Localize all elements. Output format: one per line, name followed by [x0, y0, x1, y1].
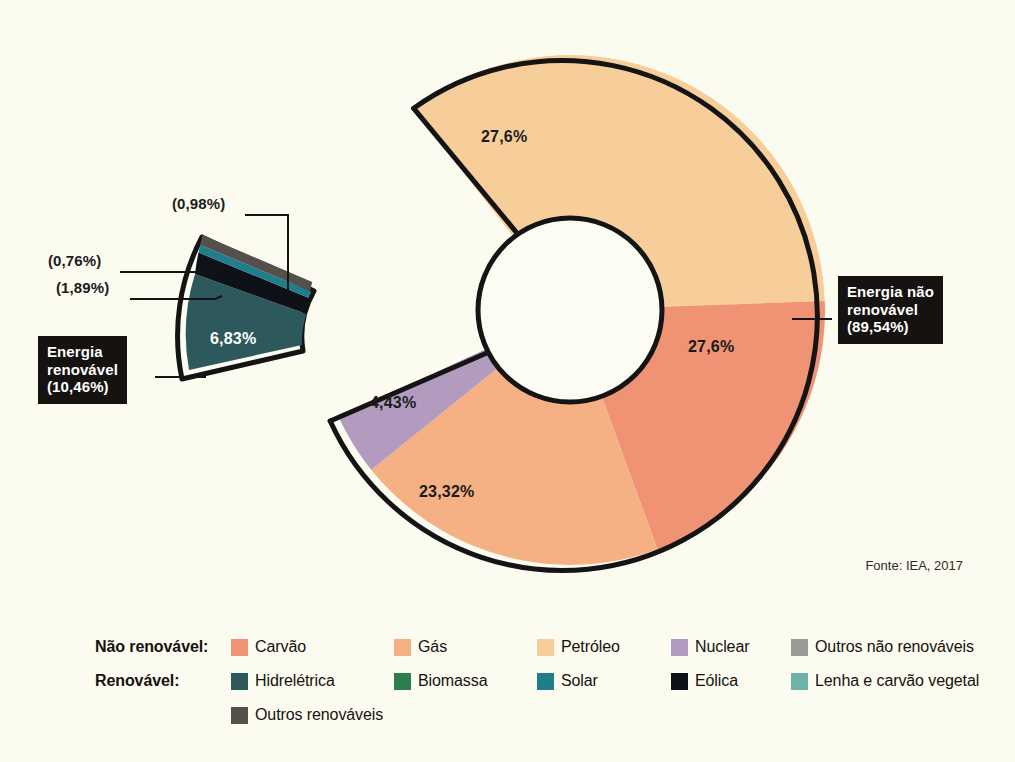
legend-label: Petróleo: [561, 638, 620, 656]
label-nuclear: 4,43%: [370, 394, 416, 412]
legend-item-solar[interactable]: Solar: [537, 672, 671, 690]
donut-hole: [478, 218, 662, 402]
color-swatch-icon: [537, 639, 554, 656]
legend-label: Carvão: [255, 638, 306, 656]
legend-label: Outros renováveis: [255, 706, 383, 724]
legend-item-outros-renovaveis[interactable]: Outros renováveis: [231, 706, 383, 724]
legend-item-eolica[interactable]: Eólica: [671, 672, 791, 690]
legend-label: Outros não renováveis: [815, 638, 974, 656]
legend-item-petroleo[interactable]: Petróleo: [537, 638, 671, 656]
label-carvao: 27,6%: [688, 338, 734, 356]
legend-label: Nuclear: [695, 638, 749, 656]
legend-item-outros-nao-renovaveis[interactable]: Outros não renováveis: [791, 638, 974, 656]
legend-label: Lenha e carvão vegetal: [815, 672, 979, 690]
legend-item-biomassa[interactable]: Biomassa: [394, 672, 537, 690]
label-eolica: (1,89%): [56, 279, 109, 296]
legend-item-gas[interactable]: Gás: [394, 638, 537, 656]
legend-item-lenha[interactable]: Lenha e carvão vegetal: [791, 672, 979, 690]
source-note: Fonte: IEA, 2017: [865, 558, 963, 573]
legend-row: Não renovável: Carvão Gás Petróleo Nucle…: [95, 630, 995, 664]
color-swatch-icon: [671, 673, 688, 690]
legend-category-label: Não renovável:: [95, 638, 231, 656]
legend-item-nuclear[interactable]: Nuclear: [671, 638, 791, 656]
callout-renovavel: Energia renovável (10,46%): [38, 336, 127, 404]
legend-label: Hidrelétrica: [255, 672, 335, 690]
legend-label: Solar: [561, 672, 598, 690]
page-title: MATRIZ ENERGÉTICA MUNDIAL: [75, 0, 545, 3]
chart-canvas: MATRIZ ENERGÉTICA MUNDIAL: [0, 0, 1015, 762]
legend-label: Gás: [418, 638, 447, 656]
color-swatch-icon: [791, 673, 808, 690]
legend-category-label: Renovável:: [95, 672, 231, 690]
color-swatch-icon: [791, 639, 808, 656]
label-outros-renovaveis: (0,98%): [172, 195, 225, 212]
color-swatch-icon: [394, 673, 411, 690]
chart-legend: Não renovável: Carvão Gás Petróleo Nucle…: [95, 630, 995, 732]
legend-label: Biomassa: [418, 672, 487, 690]
non-renewable-ring: [327, 55, 825, 575]
color-swatch-icon: [231, 707, 248, 724]
label-gas: 23,32%: [419, 483, 474, 501]
color-swatch-icon: [537, 673, 554, 690]
label-solar-lenha: (0,76%): [48, 252, 101, 269]
label-petroleo: 27,6%: [481, 128, 527, 146]
legend-row: Outros renováveis: [95, 698, 995, 732]
callout-nao-renovavel: Energia não renovável (89,54%): [838, 276, 943, 344]
color-swatch-icon: [231, 639, 248, 656]
legend-row: Renovável: Hidrelétrica Biomassa Solar E…: [95, 664, 995, 698]
renewable-wedge: [178, 235, 314, 379]
color-swatch-icon: [231, 673, 248, 690]
legend-item-hidreletrica[interactable]: Hidrelétrica: [231, 672, 394, 690]
color-swatch-icon: [394, 639, 411, 656]
legend-label: Eólica: [695, 672, 738, 690]
legend-item-carvao[interactable]: Carvão: [231, 638, 394, 656]
label-hidreletrica: 6,83%: [210, 330, 256, 348]
color-swatch-icon: [671, 639, 688, 656]
